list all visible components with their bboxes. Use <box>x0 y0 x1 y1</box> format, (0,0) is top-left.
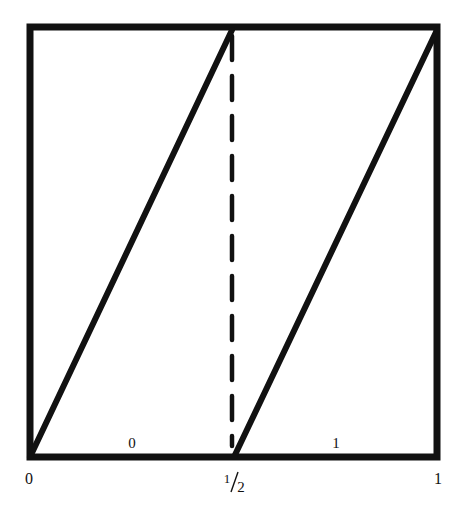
x-label-one: 1 <box>434 470 442 487</box>
x-label-half-denominator: 2 <box>237 479 245 495</box>
doubling-map-diagram: 0 1 0 1 2 1 <box>0 0 458 513</box>
x-label-one-half: 1 2 <box>224 471 245 495</box>
x-label-half-numerator: 1 <box>224 471 231 486</box>
left-branch-line <box>30 30 232 457</box>
left-region-label: 0 <box>128 435 136 451</box>
right-branch-line <box>234 30 437 457</box>
x-label-zero: 0 <box>25 470 33 487</box>
right-region-label: 1 <box>332 435 340 451</box>
